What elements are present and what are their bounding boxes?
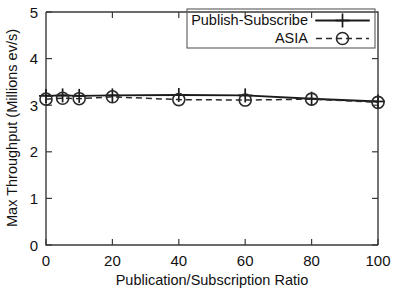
x-tick-label-100: 100	[365, 252, 390, 269]
y-tick-label-2: 2	[30, 143, 38, 160]
x-tick-label-20: 20	[104, 252, 121, 269]
y-tick-label-1: 1	[30, 190, 38, 207]
chart-figure: 0 1 2 3 4 5 0 20 40 60 80 100	[0, 0, 399, 289]
line-chart: 0 1 2 3 4 5 0 20 40 60 80 100	[0, 0, 399, 289]
x-tick-label-60: 60	[237, 252, 254, 269]
x-tick-label-0: 0	[42, 252, 50, 269]
x-tick-label-80: 80	[303, 252, 320, 269]
y-tick-label-4: 4	[30, 50, 38, 67]
x-axis-title: Publication/Subscription Ratio	[116, 272, 309, 288]
y-tick-label-3: 3	[30, 97, 38, 114]
legend-label-publish-subscribe: Publish-Subscribe	[191, 12, 308, 28]
legend-entry-publish-subscribe: Publish-Subscribe	[191, 12, 369, 28]
x-tick-label-40: 40	[170, 252, 187, 269]
legend-label-asia: ASIA	[275, 30, 308, 46]
y-axis-title: Max Throughput (Millions ev/s)	[4, 29, 20, 227]
y-tick-label-5: 5	[30, 4, 38, 21]
y-tick-label-0: 0	[30, 237, 38, 254]
